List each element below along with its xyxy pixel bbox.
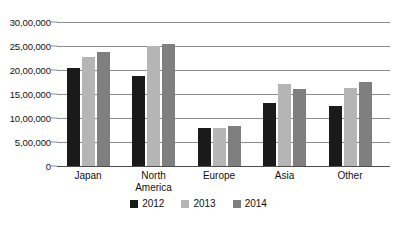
legend-label: 2014 — [245, 199, 267, 209]
bar-chart: 05,00,00010,00,00015,00,00020,00,00025,0… — [0, 0, 397, 226]
legend-swatch-icon — [130, 200, 138, 208]
y-tick-label: 20,00,000 — [10, 65, 51, 76]
legend-swatch-icon — [233, 200, 241, 208]
bar-group — [132, 22, 175, 166]
bar — [263, 103, 276, 166]
x-axis-labels: JapanNorth AmericaEuropeAsiaOther — [57, 168, 390, 202]
bar — [359, 82, 372, 166]
bar — [132, 76, 145, 166]
bar — [278, 84, 291, 166]
bar — [198, 128, 211, 166]
plot-area — [57, 22, 390, 166]
y-tick-label: 25,00,000 — [10, 41, 51, 52]
bar-groups — [57, 22, 390, 166]
bar-group — [67, 22, 110, 166]
bar-group — [329, 22, 372, 166]
legend-swatch-icon — [181, 200, 189, 208]
bar-group — [263, 22, 306, 166]
bar — [344, 88, 357, 166]
legend-item: 2013 — [181, 199, 215, 209]
bar — [228, 126, 241, 166]
bar-group — [198, 22, 241, 166]
legend-item: 2012 — [130, 199, 164, 209]
x-tick-label: Other — [310, 170, 390, 182]
bar — [97, 52, 110, 166]
axis-baseline — [57, 166, 390, 167]
legend: 201220132014 — [0, 199, 397, 209]
y-tick-label: 5,00,000 — [15, 137, 51, 148]
bar — [67, 68, 80, 166]
legend-label: 2012 — [142, 199, 164, 209]
y-tick-label: 30,00,000 — [10, 17, 51, 28]
bar — [82, 57, 95, 166]
y-tick-label: 15,00,000 — [10, 89, 51, 100]
y-tick-label: 10,00,000 — [10, 113, 51, 124]
y-axis: 05,00,00010,00,00015,00,00020,00,00025,0… — [0, 0, 51, 226]
bar — [213, 128, 226, 166]
legend-label: 2013 — [193, 199, 215, 209]
legend-item: 2014 — [233, 199, 267, 209]
bar — [293, 89, 306, 166]
bar — [147, 46, 160, 166]
bar — [162, 44, 175, 166]
bar — [329, 106, 342, 166]
